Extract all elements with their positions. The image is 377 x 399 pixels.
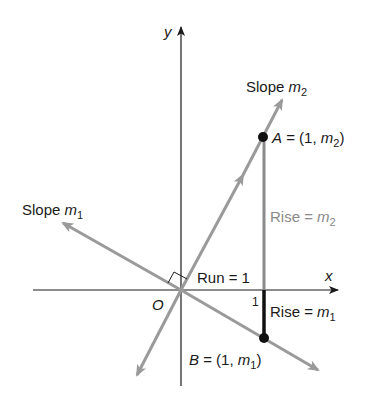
point-a	[258, 132, 268, 142]
perpendicular-slopes-diagram: y x O 1 Slope m2 Slope m1 A = (1, m2) B …	[0, 0, 377, 399]
slope-m2-label: Slope m2	[246, 78, 307, 98]
point-b-label: B = (1, m1)	[189, 351, 261, 371]
point-a-label: A = (1, m2)	[271, 129, 344, 149]
rise-m1-label: Rise = m1	[270, 303, 336, 323]
run-label: Run = 1	[197, 269, 250, 286]
origin-label: O	[152, 296, 164, 313]
slope-m1-line-left	[63, 223, 181, 290]
rise-m2-label: Rise = m2	[270, 208, 336, 228]
x-axis-label: x	[324, 267, 333, 284]
slope-m1-label: Slope m1	[22, 201, 83, 221]
tick-label-1: 1	[252, 295, 259, 309]
point-b	[259, 333, 269, 343]
y-axis-label: y	[163, 23, 173, 40]
